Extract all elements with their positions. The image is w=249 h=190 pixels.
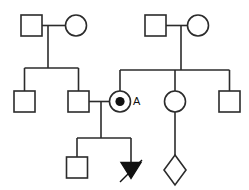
generation-1-left-family bbox=[21, 15, 87, 68]
pedigree-canvas: A bbox=[0, 0, 249, 190]
individual-II-2-male-square[interactable] bbox=[68, 91, 89, 112]
individual-II-3-carrier-female[interactable] bbox=[110, 91, 131, 112]
individual-I-1-male-square[interactable] bbox=[21, 15, 42, 36]
individual-III-2-affected-pregnancy[interactable] bbox=[120, 160, 142, 182]
individual-I-4-female-circle[interactable] bbox=[188, 15, 209, 36]
generation-2-individuals: A bbox=[14, 91, 240, 138]
allele-label-A: A bbox=[133, 95, 141, 107]
individual-III-3-diamond-unknown-sex[interactable] bbox=[164, 155, 186, 185]
carrier-center-dot bbox=[115, 97, 124, 106]
individual-II-1-male-square[interactable] bbox=[14, 91, 35, 112]
individual-III-1-male-square[interactable] bbox=[67, 157, 88, 178]
generation-1-right-family bbox=[145, 15, 209, 70]
individual-II-4-female-circle[interactable] bbox=[165, 91, 186, 112]
sibship-right-generation-2 bbox=[120, 70, 230, 91]
sibship-left-generation-2 bbox=[25, 68, 79, 91]
pedigree-chart: A bbox=[0, 0, 249, 190]
individual-II-5-male-square[interactable] bbox=[219, 91, 240, 112]
individual-I-3-male-square[interactable] bbox=[145, 15, 166, 36]
pregnancy-branch-II-4 bbox=[164, 112, 186, 185]
sibship-generation-3 bbox=[67, 138, 143, 182]
individual-I-2-female-circle[interactable] bbox=[66, 15, 87, 36]
